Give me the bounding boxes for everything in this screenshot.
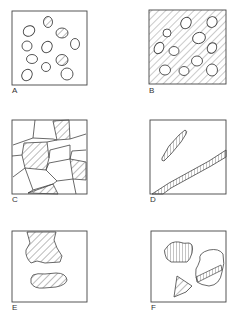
panel-b: B bbox=[119, 0, 238, 105]
panel-a-label: A bbox=[12, 87, 17, 95]
panel-e-label: E bbox=[12, 304, 17, 312]
panel-a: A bbox=[0, 0, 119, 105]
panel-f-drawing bbox=[119, 210, 238, 317]
panel-e: E bbox=[0, 210, 119, 317]
panel-f: F bbox=[119, 210, 238, 317]
panel-b-label: B bbox=[149, 87, 154, 95]
panel-c-label: C bbox=[12, 196, 18, 204]
panel-a-drawing bbox=[0, 0, 119, 105]
panel-c: C bbox=[0, 105, 119, 215]
panel-d-drawing bbox=[119, 105, 238, 215]
panel-d: D bbox=[119, 105, 238, 215]
panel-e-drawing bbox=[0, 210, 119, 317]
panel-f-label: F bbox=[151, 304, 156, 312]
panel-d-label: D bbox=[150, 196, 156, 204]
panel-b-drawing bbox=[119, 0, 238, 105]
